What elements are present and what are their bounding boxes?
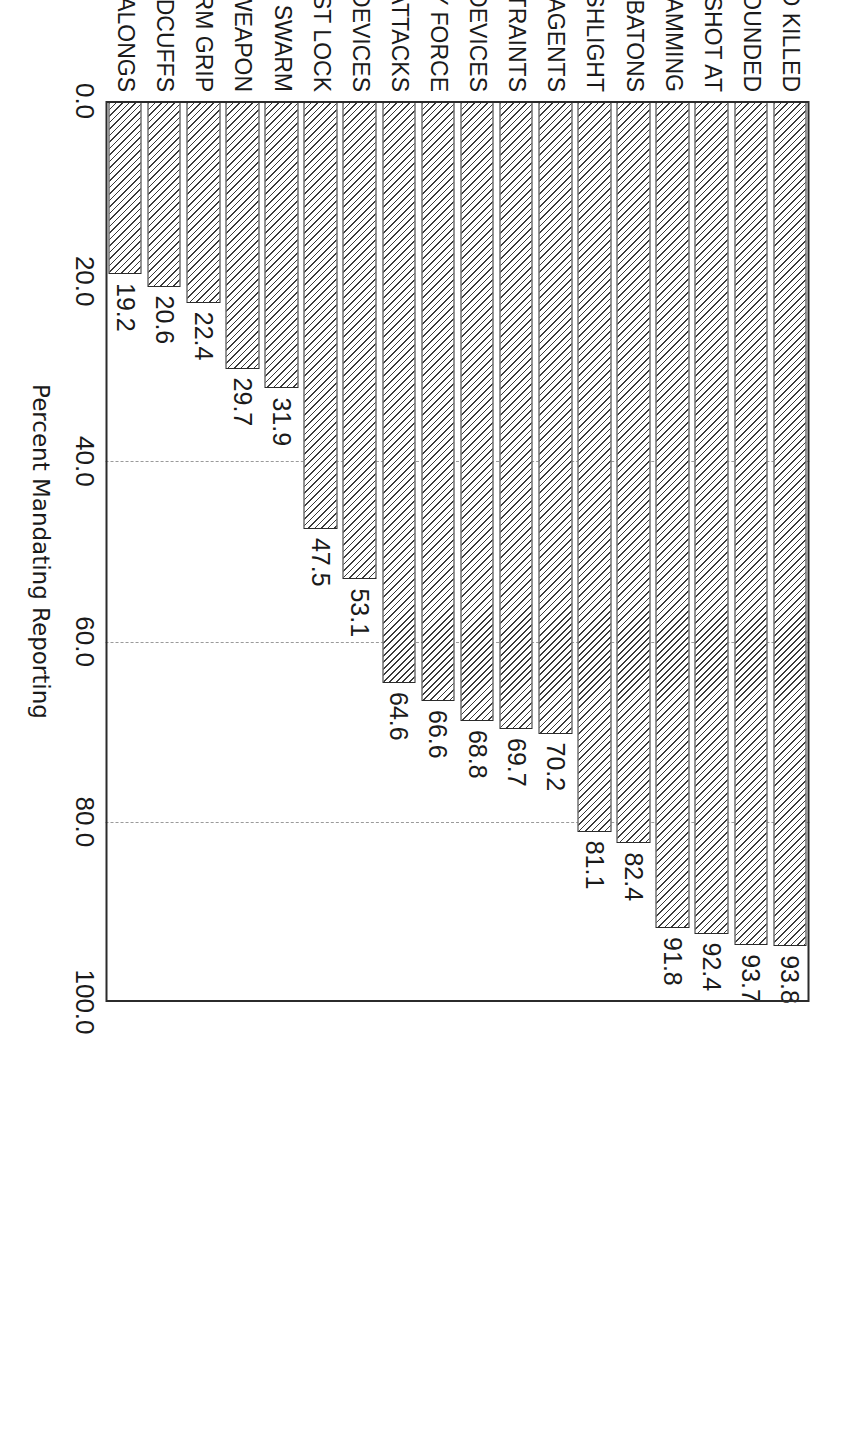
bar-chart-figure: CIVILIANS SHOT AND KILLEDCIVILIANS SHOT …: [0, 0, 865, 1446]
bar-value-label: 66.6: [423, 710, 452, 759]
bar: [108, 101, 142, 274]
bar-row: 31.9: [261, 101, 300, 1002]
bar-value-label: 93.7: [736, 954, 765, 1003]
category-label: CIVILIANS SHOT AND WOUNDED: [731, 0, 770, 92]
category-label: SWARM: [261, 5, 300, 92]
plot-area: 93.893.792.491.882.481.170.269.768.866.6…: [105, 101, 809, 1002]
bar-row: 93.7: [731, 101, 770, 1002]
bar: [694, 101, 728, 934]
category-label: UNHOLSTER WEAPON: [222, 0, 261, 92]
bar-row: 93.8: [770, 101, 809, 1002]
bar: [342, 101, 376, 579]
bar-row: 82.4: [613, 101, 652, 1002]
category-label: HANDCUFFS: [144, 0, 183, 92]
category-label: FIRM GRIP: [183, 0, 222, 92]
bar: [147, 101, 181, 287]
bar-row: 19.2: [105, 101, 144, 1002]
bar-value-label: 19.2: [110, 283, 139, 332]
category-label: DOG ATTACKS: [379, 0, 418, 92]
category-label: BATONS: [613, 0, 652, 92]
bar-row: 47.5: [301, 101, 340, 1002]
category-axis: CIVILIANS SHOT AND KILLEDCIVILIANS SHOT …: [105, 0, 809, 92]
category-label: FLASHLIGHT: [574, 0, 613, 92]
bar-value-label: 20.6: [149, 296, 178, 345]
bar-value-label: 31.9: [267, 397, 296, 446]
tick-label: 60.0: [68, 616, 99, 667]
tick-label: 80.0: [68, 796, 99, 847]
bar-value-label: 92.4: [697, 943, 726, 992]
bar: [264, 101, 298, 388]
bar-value-label: 70.2: [540, 743, 569, 792]
bar: [577, 101, 611, 832]
bar-row: 29.7: [222, 101, 261, 1002]
bar-value-label: 93.8: [775, 955, 804, 1004]
category-label: CIVILIANS SHOT AT: [692, 0, 731, 92]
tick-label: 40.0: [68, 436, 99, 487]
bar: [382, 101, 416, 683]
bar: [421, 101, 455, 701]
category-label: VEHICLE RAMMING: [653, 0, 692, 92]
category-label: CIVILIANS SHOT AND KILLED: [770, 0, 809, 92]
bar-value-label: 82.4: [619, 852, 648, 901]
bar-value-label: 68.8: [462, 730, 491, 779]
bar-value-label: 53.1: [345, 588, 374, 637]
category-label: ELECTRICAL DEVICES: [340, 0, 379, 92]
bar-row: 81.1: [574, 101, 613, 1002]
bar-value-label: 64.6: [384, 692, 413, 741]
bar-row: 53.1: [340, 101, 379, 1002]
bar-value-label: 47.5: [306, 538, 335, 587]
category-label: OTHER IMPACT DEVICES: [457, 0, 496, 92]
value-axis-ticks: 0.020.040.060.080.0100.0: [45, 101, 105, 1002]
bar-row: 64.6: [379, 101, 418, 1002]
bar-row: 92.4: [692, 101, 731, 1002]
bar-row: 69.7: [496, 101, 535, 1002]
tick-label: 0.0: [68, 83, 99, 119]
bar: [538, 101, 572, 734]
category-label: CHEMICAL AGENTS: [535, 0, 574, 92]
bar: [303, 101, 337, 529]
bar-row: 91.8: [653, 101, 692, 1002]
bar-row: 22.4: [183, 101, 222, 1002]
bar-row: 68.8: [457, 101, 496, 1002]
bar-value-label: 69.7: [501, 738, 530, 787]
bar-value-label: 91.8: [658, 937, 687, 986]
bar: [499, 101, 533, 729]
bar: [655, 101, 689, 928]
bar-row: 66.6: [418, 101, 457, 1002]
category-label: TWIST LOCK: [301, 0, 340, 92]
bar-value-label: 81.1: [579, 841, 608, 890]
bar: [460, 101, 494, 721]
bar: [773, 101, 807, 946]
bar-value-label: 22.4: [188, 312, 217, 361]
bar: [225, 101, 259, 369]
bar: [734, 101, 768, 945]
bar: [616, 101, 650, 843]
tick-label: 20.0: [68, 256, 99, 307]
tick-label: 100.0: [68, 969, 99, 1034]
bar-row: 70.2: [535, 101, 574, 1002]
bar-row: 20.6: [144, 101, 183, 1002]
category-label: COME-ALONGS: [105, 0, 144, 92]
bar-value-label: 29.7: [227, 378, 256, 427]
category-label: NECK RESTRAINTS: [496, 0, 535, 92]
category-label: BODILY FORCE: [418, 0, 457, 92]
bar: [186, 101, 220, 303]
value-axis-title: Percent Mandating Reporting: [27, 101, 53, 1002]
